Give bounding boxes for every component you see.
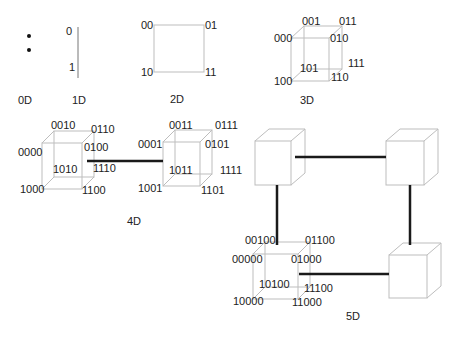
node-3d: 010	[330, 33, 348, 44]
node-1d: 0	[66, 26, 72, 37]
node-1d: 1	[69, 62, 75, 73]
node-4d: 1001	[138, 183, 162, 194]
vertex-0d-a	[27, 34, 31, 38]
node-5d: 11000	[292, 297, 322, 308]
node-4d: 1101	[201, 185, 225, 196]
node-4d: 0100	[84, 142, 108, 153]
label-3d: 3D	[300, 95, 314, 106]
node-3d: 101	[300, 63, 318, 74]
cube-5d-bottom-left	[253, 242, 310, 299]
node-5d: 01100	[305, 235, 335, 246]
node-5d: 10000	[233, 296, 264, 307]
node-3d: 110	[331, 72, 349, 83]
node-5d: 00100	[245, 235, 276, 246]
node-2d: 11	[205, 67, 216, 78]
node-3d: 011	[339, 16, 357, 27]
label-0d: 0D	[18, 95, 32, 106]
cube-4d-left	[42, 131, 94, 189]
square-2d	[154, 25, 204, 72]
vertex-0d-b	[27, 48, 31, 52]
node-5d: 00000	[232, 254, 263, 265]
node-2d: 01	[205, 20, 217, 31]
node-4d: 1010	[53, 164, 77, 175]
node-4d: 0110	[91, 124, 115, 135]
label-1d: 1D	[72, 95, 86, 106]
node-3d: 001	[302, 16, 320, 27]
node-5d: 11100	[304, 283, 333, 294]
node-4d: 0101	[205, 139, 229, 150]
hypercube-diagram: 0D 0 1 1D 00 01 10 11 2D 000 001 010 011…	[0, 0, 453, 337]
node-3d: 111	[348, 58, 365, 69]
node-4d: 1000	[20, 184, 44, 195]
node-4d: 0000	[18, 147, 42, 158]
node-4d: 1100	[82, 185, 106, 196]
cube-5d-top-right	[386, 129, 438, 185]
node-4d: 0011	[169, 120, 193, 131]
node-4d: 1111	[220, 165, 242, 176]
node-3d: 100	[274, 76, 292, 87]
node-4d: 0010	[51, 120, 75, 131]
node-4d: 1011	[169, 165, 193, 176]
node-4d: 0001	[138, 139, 162, 150]
node-2d: 00	[141, 20, 153, 31]
node-5d: 01000	[291, 254, 322, 265]
node-5d: 10100	[259, 279, 290, 290]
node-4d: 1110	[93, 163, 116, 174]
node-2d: 10	[141, 67, 153, 78]
label-4d: 4D	[127, 216, 141, 227]
label-5d: 5D	[346, 311, 360, 322]
node-4d: 0111	[215, 120, 238, 131]
node-3d: 000	[274, 33, 292, 44]
cube-5d-bottom-right	[389, 243, 441, 298]
label-2d: 2D	[170, 94, 184, 105]
